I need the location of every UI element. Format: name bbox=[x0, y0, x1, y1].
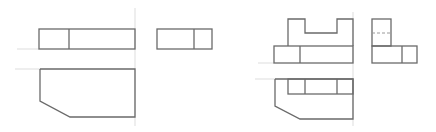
right-figure bbox=[255, 12, 417, 126]
right-side-view bbox=[372, 19, 417, 63]
right-top-view bbox=[275, 79, 353, 119]
right-front-view bbox=[274, 19, 353, 63]
left-side-view bbox=[157, 29, 212, 49]
orthographic-drawing bbox=[0, 0, 436, 132]
left-figure bbox=[15, 8, 212, 126]
left-top-view bbox=[40, 69, 135, 117]
left-front-view bbox=[39, 29, 135, 49]
